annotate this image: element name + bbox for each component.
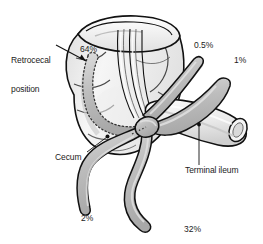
label-retrocecal-line1: Retrocecal <box>11 56 51 66</box>
percent-pelvic: 32% <box>184 225 201 235</box>
percent-retrocecal: 64% <box>80 45 97 55</box>
label-cecum: Cecum <box>55 153 81 163</box>
percent-postileal: 1% <box>234 56 246 66</box>
percent-subcecal: 2% <box>81 214 93 224</box>
percent-preileal: 0.5% <box>194 41 213 51</box>
appendix-positions-figure: Retrocecal position 64% 0.5% 1% 2% 32% C… <box>0 0 263 244</box>
label-retrocecal-position: Retrocecal position <box>11 37 51 113</box>
label-retrocecal-line2: position <box>11 85 51 95</box>
label-terminal-ileum: Terminal ileum <box>185 166 238 176</box>
